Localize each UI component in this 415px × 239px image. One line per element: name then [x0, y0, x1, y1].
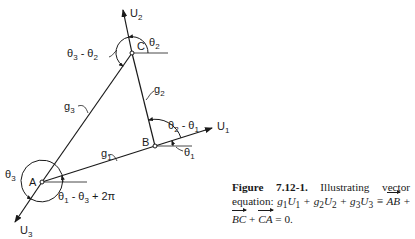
point-label-b: B: [142, 136, 149, 148]
point-label-c: C: [137, 40, 145, 52]
vector-ca: CA: [258, 212, 272, 226]
point-label-a: A: [29, 176, 37, 188]
angle-arc-theta1: [172, 141, 173, 146]
side-g3-line: [42, 53, 132, 182]
angle-label-theta2-minus-theta1: θ2 - θ1: [168, 119, 199, 134]
point-a: [40, 180, 44, 184]
point-b: [153, 144, 157, 148]
leader-g2: [146, 91, 154, 100]
side-g1-line: [42, 146, 155, 182]
side-label-g3: g3: [64, 100, 75, 115]
vector-label-u3: U3: [20, 224, 33, 239]
vector-label-u1: U1: [217, 120, 230, 135]
vector-bc: BC: [232, 212, 246, 226]
side-label-g1: g1: [101, 147, 112, 162]
vector-ab: AB: [387, 194, 401, 208]
figure-caption: Figure 7.12-1. Illustrating vector equat…: [232, 180, 410, 226]
angle-label-theta3-minus-theta2: θ3 - θ2: [67, 47, 98, 62]
angle-arc-theta3-minus-theta2: [116, 37, 129, 66]
angle-label-theta1-minus-theta3-plus-2pi: θ1 - θ3 + 2π: [58, 190, 116, 205]
side-label-g2: g2: [154, 83, 165, 98]
vector-label-u2: U2: [130, 7, 143, 22]
leader-g3: [78, 105, 88, 113]
point-c: [130, 51, 134, 55]
leader-theta1: [176, 147, 183, 151]
angle-label-theta1: θ1: [184, 146, 195, 161]
angle-label-theta2: θ2: [149, 36, 160, 51]
side-g2-line: [132, 53, 155, 146]
figure-label: Figure 7.12-1.: [232, 181, 308, 193]
angle-label-theta3: θ3: [5, 168, 16, 183]
